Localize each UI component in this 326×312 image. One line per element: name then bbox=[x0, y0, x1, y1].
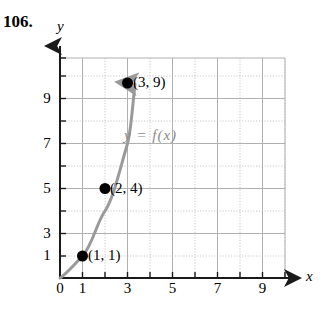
coordinate-plane-svg bbox=[0, 0, 326, 312]
y-tick-label-5: 5 bbox=[40, 180, 54, 197]
x-tick-label-1: 1 bbox=[76, 280, 90, 297]
y-tick-label-1: 1 bbox=[40, 247, 54, 264]
x-axis-label: x bbox=[306, 268, 313, 285]
data-point-3-9 bbox=[122, 78, 133, 89]
point-label-2-4: (2, 4) bbox=[110, 180, 143, 197]
y-tick-label-3: 3 bbox=[40, 225, 54, 242]
x-tick-label-9: 9 bbox=[256, 280, 270, 297]
y-tick-label-7: 7 bbox=[40, 135, 54, 152]
data-point-1-1 bbox=[77, 251, 88, 262]
y-tick-label-9: 9 bbox=[40, 90, 54, 107]
graph-figure: 106. bbox=[0, 0, 326, 312]
x-tick-label-0: 0 bbox=[53, 280, 67, 297]
function-equation-label: y = f(x) bbox=[124, 127, 177, 144]
data-point-2-4 bbox=[100, 183, 111, 194]
point-label-3-9: (3, 9) bbox=[133, 74, 166, 91]
grid-solid-vertical bbox=[83, 58, 286, 278]
x-tick-label-3: 3 bbox=[121, 280, 135, 297]
point-label-1-1: (1, 1) bbox=[88, 247, 121, 264]
x-tick-label-7: 7 bbox=[211, 280, 225, 297]
grid-dotted-vertical bbox=[105, 58, 285, 278]
x-tick-label-5: 5 bbox=[166, 280, 180, 297]
y-axis-label: y bbox=[57, 18, 64, 35]
